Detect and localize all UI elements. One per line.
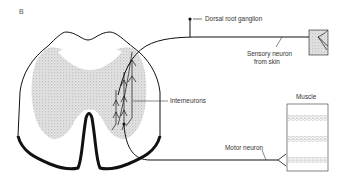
label-interneurons: Interneurons [170, 97, 206, 104]
skin-box [309, 30, 328, 55]
muscle-box [287, 104, 328, 171]
label-sensory-neuron-from-skin: from skin [254, 58, 280, 65]
label-motor-neuron: Motor neuron [225, 144, 263, 151]
label-dorsal-root-ganglion: Dorsal root ganglion [205, 15, 263, 23]
reflex-arc-diagram: B [0, 0, 339, 182]
dorsal-root-ganglion-dot [188, 17, 191, 20]
muscle-fiber [288, 115, 327, 121]
panel-label: B [19, 8, 24, 15]
label-sensory-neuron: Sensory neuron [247, 50, 293, 58]
label-muscle: Muscle [296, 93, 317, 100]
muscle-fiber [288, 136, 327, 142]
spinal-cord-section [18, 32, 160, 169]
muscle-fiber [288, 157, 327, 163]
